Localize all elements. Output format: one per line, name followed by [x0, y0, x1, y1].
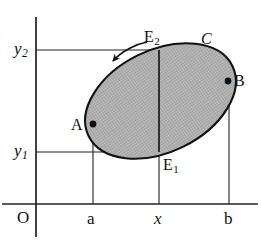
- point-marker-a: [90, 121, 97, 128]
- ellipse-boundary-curve: [66, 20, 255, 182]
- y1-base: y: [14, 141, 22, 160]
- point-marker-b: [225, 78, 232, 85]
- ellipse-region-figure: y2 y1 O a x b A B E2 E1 C: [0, 0, 261, 241]
- point-label-e2: E2: [144, 29, 159, 45]
- point-label-b: B: [234, 73, 245, 89]
- e1-base: E: [163, 156, 173, 173]
- y-tick-label-y2: y2: [14, 40, 27, 57]
- figure-canvas: [0, 0, 261, 241]
- y-tick-label-y1: y1: [14, 142, 27, 159]
- y2-subscript: 2: [22, 47, 28, 60]
- curve-label-c: C: [201, 31, 212, 47]
- y1-subscript: 1: [22, 149, 28, 162]
- x-tick-label-b: b: [224, 210, 233, 227]
- x-tick-label-a: a: [87, 210, 95, 227]
- e1-subscript: 1: [173, 163, 178, 175]
- point-label-e1: E1: [163, 157, 178, 173]
- e2-subscript: 2: [154, 35, 159, 47]
- e2-base: E: [144, 28, 154, 45]
- y2-base: y: [14, 39, 22, 58]
- origin-label: O: [17, 209, 29, 226]
- region-c-shape: [66, 20, 255, 182]
- x-tick-label-x: x: [154, 210, 162, 227]
- point-label-a: A: [71, 117, 83, 133]
